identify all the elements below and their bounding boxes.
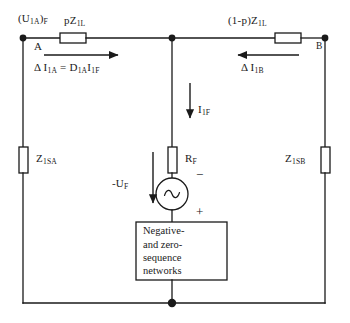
resistor-line-left: [60, 33, 86, 43]
node-dot-fault-top: [169, 35, 176, 42]
network-box-line-3: sequence: [143, 251, 227, 264]
label-voltage-a: (U1A)F: [18, 12, 48, 25]
node-dot-b: [322, 35, 329, 42]
label-fault-resistance: RF: [185, 152, 197, 165]
label-impedance-line-right: (1-p)Z1L: [228, 14, 267, 27]
network-box-line-4: networks: [143, 264, 227, 277]
network-box-line-1: Negative-: [143, 224, 227, 237]
label-delta-current-b: Δ I1B: [241, 61, 264, 74]
label-polarity-minus: −: [196, 168, 204, 183]
fault-circuit-diagram: (U1A)F pZ1L (1-p)Z1L A B Δ I1A = D1AI1F …: [0, 0, 350, 323]
resistor-source-a: [19, 147, 28, 173]
label-delta-current-a-equation: Δ I1A = D1AI1F: [34, 61, 100, 74]
label-fault-voltage: -UF: [112, 177, 128, 190]
label-node-a: A: [34, 40, 42, 53]
label-impedance-line-left: pZ1L: [64, 14, 85, 27]
label-polarity-plus: +: [196, 205, 204, 220]
resistor-source-b: [321, 147, 330, 173]
resistor-fault: [168, 147, 177, 173]
node-dot-ground: [168, 299, 176, 307]
network-box-text: Negative- and zero- sequence networks: [136, 222, 227, 280]
node-dot-a: [20, 35, 27, 42]
resistor-line-right: [275, 33, 301, 43]
label-node-b: B: [316, 41, 323, 52]
label-fault-current: I1F: [198, 103, 210, 116]
label-impedance-source-a: Z1SA: [36, 152, 57, 165]
network-box-line-2: and zero-: [143, 238, 227, 251]
label-impedance-source-b: Z1SB: [285, 152, 306, 165]
